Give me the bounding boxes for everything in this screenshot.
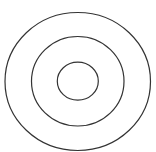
outer-ring — [5, 13, 151, 151]
diagram-svg — [0, 0, 156, 152]
concentric-circles-diagram — [0, 0, 156, 152]
inner-ring — [57, 62, 98, 100]
middle-ring — [32, 37, 125, 127]
